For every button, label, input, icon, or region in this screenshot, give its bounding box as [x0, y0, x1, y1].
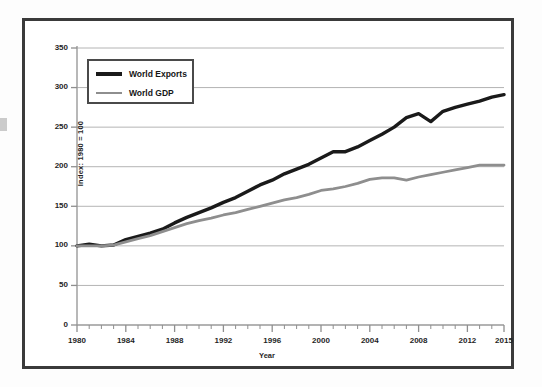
y-tick-label: 150	[42, 201, 68, 210]
x-tick-label: 1980	[60, 336, 94, 345]
x-tick-label: 2012	[450, 336, 484, 345]
y-tick-label: 50	[42, 280, 68, 289]
x-tick-label: 1984	[109, 336, 143, 345]
chart-legend: World Exports World GDP	[87, 59, 194, 104]
x-tick-label: 2004	[353, 336, 387, 345]
chart-page: Index: 1980 = 100 050100150200250300350 …	[0, 0, 542, 387]
y-tick-label: 100	[42, 240, 68, 249]
x-tick-label: 2000	[304, 336, 338, 345]
series-line-world-exports	[77, 95, 504, 246]
legend-swatch-line-icon	[96, 72, 122, 75]
x-tick-label: 2015	[487, 336, 521, 345]
scan-artifact	[0, 118, 7, 131]
figure-frame: Index: 1980 = 100 050100150200250300350 …	[22, 18, 514, 369]
y-tick-label: 200	[42, 161, 68, 170]
x-tick-label: 2008	[402, 336, 436, 345]
legend-label: World Exports	[129, 69, 187, 79]
x-axis-title: Year	[222, 351, 312, 360]
y-axis-title: Index: 1980 = 100	[76, 94, 85, 214]
legend-label: World GDP	[129, 88, 174, 98]
y-tick-label: 300	[42, 82, 68, 91]
x-tick-label: 1996	[255, 336, 289, 345]
legend-item-world-exports: World Exports	[96, 66, 187, 82]
chart-plot-area: Index: 1980 = 100 050100150200250300350 …	[25, 21, 511, 366]
y-tick-label: 250	[42, 122, 68, 131]
y-tick-label: 0	[42, 320, 68, 329]
data-series-group	[77, 95, 504, 246]
legend-item-world-gdp: World GDP	[96, 85, 174, 101]
x-tick-label: 1992	[206, 336, 240, 345]
y-tick-label: 350	[42, 43, 68, 52]
series-line-world-gdp	[77, 165, 504, 246]
legend-swatch-line-icon	[96, 92, 122, 95]
x-tick-label: 1988	[158, 336, 192, 345]
